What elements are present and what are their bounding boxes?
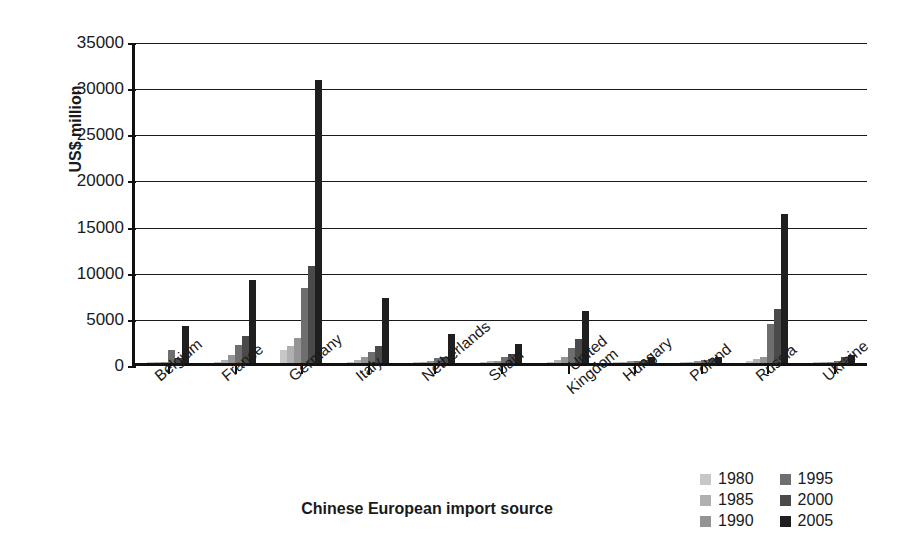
bar-chart: US$ million 3500030000250002000015000100… [0, 0, 898, 552]
bar [315, 80, 322, 363]
bar [382, 298, 389, 363]
bar [147, 362, 154, 364]
legend: 198019951985200019902005 [700, 470, 833, 530]
bar [280, 350, 287, 363]
bar-group [601, 43, 668, 363]
legend-label: 2005 [798, 512, 834, 530]
y-axis-tick-label: 0 [34, 356, 124, 376]
bar [214, 362, 221, 364]
bar [680, 362, 687, 364]
bar-group [667, 43, 734, 363]
bar [547, 362, 554, 364]
y-axis-tick-label: 20000 [34, 171, 124, 191]
bar-group [468, 43, 535, 363]
plot-area: 35000300002500020000150001000050000 [132, 43, 867, 366]
bar-group [534, 43, 601, 363]
legend-item: 2000 [780, 491, 834, 509]
legend-label: 1985 [718, 491, 754, 509]
legend-swatch [780, 495, 791, 506]
y-axis-tick-label: 30000 [34, 79, 124, 99]
bar [480, 362, 487, 364]
bar [487, 361, 494, 363]
legend-swatch [700, 495, 711, 506]
bar-group [202, 43, 269, 363]
bar [820, 362, 827, 364]
legend-item: 1990 [700, 512, 754, 530]
y-axis-tick-label: 10000 [34, 264, 124, 284]
legend-label: 2000 [798, 491, 834, 509]
legend-item: 1995 [780, 470, 834, 488]
bar [620, 362, 627, 364]
legend-swatch [700, 474, 711, 485]
legend-label: 1980 [718, 470, 754, 488]
bar-groups [135, 43, 867, 363]
y-axis-tick [128, 366, 136, 368]
bar [554, 360, 561, 363]
bar [413, 362, 420, 364]
legend-swatch [780, 474, 791, 485]
legend-swatch [780, 516, 791, 527]
legend-item: 1980 [700, 470, 754, 488]
legend-swatch [700, 516, 711, 527]
bar [746, 361, 753, 363]
y-axis-tick-label: 35000 [34, 33, 124, 53]
bar-group [335, 43, 402, 363]
bar-group [135, 43, 202, 363]
bar [753, 359, 760, 363]
legend-label: 1995 [798, 470, 834, 488]
bar [354, 360, 361, 363]
bar [287, 346, 294, 363]
legend-item: 1985 [700, 491, 754, 509]
x-axis-title: Chinese European import source [132, 500, 722, 518]
bar-group [268, 43, 335, 363]
y-axis-tick-label: 25000 [34, 125, 124, 145]
bar-group [734, 43, 801, 363]
legend-label: 1990 [718, 512, 754, 530]
bar [687, 362, 694, 364]
y-axis-tick-label: 15000 [34, 218, 124, 238]
bar [347, 362, 354, 364]
legend-item: 2005 [780, 512, 834, 530]
bar [813, 362, 820, 364]
bar-group [401, 43, 468, 363]
bar-group [800, 43, 867, 363]
y-axis-tick-label: 5000 [34, 310, 124, 330]
